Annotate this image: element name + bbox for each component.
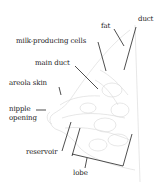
lobe-bracket-left [72, 128, 80, 156]
label-duct: duct [138, 15, 153, 23]
main-duct-leader [75, 66, 98, 89]
label-opening: opening [9, 114, 37, 122]
reservoir-leader [62, 122, 71, 151]
areola-leader [59, 87, 61, 95]
breast-illustration [0, 0, 161, 182]
lobe-leader [85, 158, 87, 168]
label-fat: fat [101, 22, 110, 30]
label-nipple: nipple [9, 105, 31, 113]
label-milk-producing-cells: milk-producing cells [16, 37, 86, 45]
milk-cells-leader [98, 42, 106, 71]
label-reservoir: reservoir [26, 148, 57, 156]
label-main-duct: main duct [35, 59, 70, 67]
fat-leader [114, 29, 124, 46]
label-areola-skin: areola skin [9, 79, 47, 87]
lobe-bracket [72, 134, 132, 166]
label-lobe: lobe [73, 169, 88, 177]
